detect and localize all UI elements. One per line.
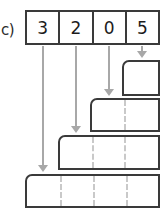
part-label: c) <box>1 20 21 40</box>
bar-thousands <box>25 174 160 208</box>
arrow-to-bar-ones <box>137 46 147 58</box>
arrow-shaft <box>108 46 110 90</box>
digit-table: 3 2 0 5 <box>25 10 160 45</box>
figure-canvas: c) 3 2 0 5 <box>0 0 163 213</box>
arrow-head-icon <box>104 89 114 96</box>
bar-divider-dash <box>92 137 94 168</box>
arrow-to-bar-thousands <box>38 46 48 172</box>
bar-divider-dash <box>60 176 62 206</box>
digit-cell-ones: 5 <box>127 12 158 43</box>
bar-tens <box>90 98 160 132</box>
arrow-head-icon <box>71 126 81 133</box>
bar-divider-dash <box>126 176 128 206</box>
digit-cell-tens: 0 <box>94 12 127 43</box>
arrow-to-bar-hundreds <box>71 46 81 133</box>
bar-divider-dash <box>93 176 95 206</box>
arrow-to-bar-tens <box>104 46 114 96</box>
arrow-shaft <box>75 46 77 127</box>
bar-divider-dash <box>124 100 126 130</box>
digit-cell-thousands: 3 <box>27 12 60 43</box>
digit-cell-hundreds: 2 <box>60 12 93 43</box>
bar-hundreds <box>58 135 160 170</box>
bar-ones <box>122 60 160 96</box>
arrow-shaft <box>42 46 44 166</box>
bar-divider-dash <box>124 137 126 168</box>
arrow-head-icon <box>38 165 48 172</box>
arrow-head-icon <box>137 51 147 58</box>
